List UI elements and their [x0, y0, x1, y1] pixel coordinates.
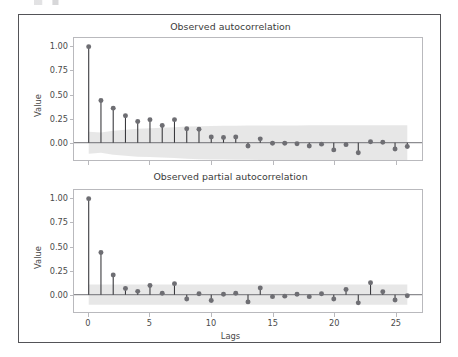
x-tick-mark: [88, 313, 89, 317]
y-tick-mark: [70, 70, 74, 71]
y-tick-label: 0.50: [38, 90, 68, 98]
y-tick-mark: [70, 143, 74, 144]
x-tick-label: 20: [329, 319, 339, 327]
y-tick-mark: [70, 295, 74, 296]
plot-area-pacf: [73, 189, 423, 313]
pacf-stem-plot: [74, 190, 422, 312]
x-tick-mark: [273, 161, 274, 165]
clipped-edge-artifact: [34, 0, 68, 5]
y-tick-label: 0.75: [38, 218, 68, 226]
x-tick-mark: [211, 313, 212, 317]
acf-stem-plot: [74, 38, 422, 160]
x-tick-mark: [396, 161, 397, 165]
y-tick-label: 1.00: [38, 194, 68, 202]
x-tick-label: 0: [85, 319, 90, 327]
y-tick-label: 1.00: [38, 42, 68, 50]
x-tick-mark: [149, 313, 150, 317]
y-tick-mark: [70, 271, 74, 272]
x-tick-mark: [334, 313, 335, 317]
y-tick-label: 0.25: [38, 115, 68, 123]
panel-title-acf: Observed autocorrelation: [19, 21, 442, 32]
y-tick-label: 0.00: [38, 139, 68, 147]
y-tick-mark: [70, 198, 74, 199]
y-tick-mark: [70, 46, 74, 47]
x-tick-mark: [211, 161, 212, 165]
y-tick-mark: [70, 222, 74, 223]
y-tick-label: 0.00: [38, 291, 68, 299]
x-tick-mark: [88, 161, 89, 165]
x-axis-label: Lags: [19, 331, 442, 341]
x-tick-mark: [273, 313, 274, 317]
figure-frame: Observed autocorrelation Value 0.000.250…: [18, 14, 441, 343]
y-tick-mark: [70, 95, 74, 96]
panel-partial-autocorrelation: Observed partial autocorrelation Value L…: [19, 165, 442, 344]
x-tick-label: 15: [267, 319, 277, 327]
plot-area-acf: [73, 37, 423, 161]
x-tick-mark: [149, 161, 150, 165]
x-tick-label: 25: [391, 319, 401, 327]
y-tick-mark: [70, 247, 74, 248]
x-tick-label: 10: [206, 319, 216, 327]
figure-root: Observed autocorrelation Value 0.000.250…: [0, 0, 458, 357]
y-tick-mark: [70, 119, 74, 120]
y-tick-label: 0.25: [38, 267, 68, 275]
x-tick-label: 5: [147, 319, 152, 327]
y-tick-label: 0.50: [38, 242, 68, 250]
panel-title-pacf: Observed partial autocorrelation: [19, 171, 442, 182]
panel-autocorrelation: Observed autocorrelation Value 0.000.250…: [19, 15, 442, 180]
x-tick-mark: [396, 313, 397, 317]
x-tick-mark: [334, 161, 335, 165]
y-tick-label: 0.75: [38, 66, 68, 74]
